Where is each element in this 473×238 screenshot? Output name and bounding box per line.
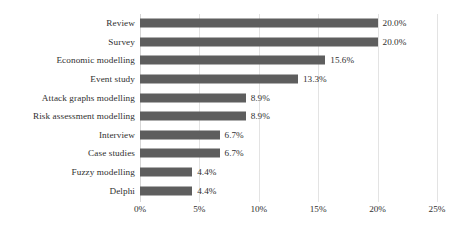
bar-value-label: 20.0% <box>383 36 407 47</box>
bar[interactable] <box>140 168 192 177</box>
bar-value-label: 6.7% <box>225 129 244 140</box>
bar-row: Fuzzy modelling4.4% <box>0 163 473 182</box>
bar-row: Attack graphs modelling8.9% <box>0 88 473 107</box>
bar[interactable] <box>140 19 378 28</box>
bar-and-value: 4.4% <box>140 168 216 177</box>
bar-row: Survey20.0% <box>0 33 473 52</box>
bar[interactable] <box>140 186 192 195</box>
bar[interactable] <box>140 149 220 158</box>
bar[interactable] <box>140 56 325 65</box>
bar-value-label: 8.9% <box>251 111 270 122</box>
bar-value-label: 4.4% <box>197 167 216 178</box>
bar-row: Event study13.3% <box>0 70 473 89</box>
category-label: Event study <box>90 74 135 85</box>
bar-rows: Review20.0%Survey20.0%Economic modelling… <box>0 14 473 202</box>
bar-value-label: 20.0% <box>383 18 407 29</box>
bar[interactable] <box>140 112 246 121</box>
bar-and-value: 13.3% <box>140 75 327 84</box>
bar-row: Case studies6.7% <box>0 144 473 163</box>
category-label: Fuzzy modelling <box>71 167 135 178</box>
category-label: Attack graphs modelling <box>42 92 135 103</box>
bar-and-value: 6.7% <box>140 149 244 158</box>
x-tick-label: 20% <box>369 203 386 215</box>
category-label: Survey <box>108 36 135 47</box>
bar[interactable] <box>140 93 246 102</box>
x-axis: 0%5%10%15%20%25% <box>0 203 473 219</box>
bar-and-value: 8.9% <box>140 93 270 102</box>
x-tick-label: 0% <box>134 203 146 215</box>
category-label: Economic modelling <box>56 55 135 66</box>
bar-and-value: 8.9% <box>140 112 270 121</box>
bar-value-label: 15.6% <box>330 55 354 66</box>
x-tick-label: 25% <box>429 203 446 215</box>
bar-chart: Review20.0%Survey20.0%Economic modelling… <box>0 0 473 238</box>
bar-value-label: 8.9% <box>251 92 270 103</box>
category-label: Review <box>106 18 135 29</box>
bar[interactable] <box>140 37 378 46</box>
bar-row: Risk assessment modelling8.9% <box>0 107 473 126</box>
category-label: Case studies <box>88 148 135 159</box>
x-tick-label: 15% <box>310 203 327 215</box>
bar-and-value: 20.0% <box>140 37 406 46</box>
x-tick-label: 10% <box>250 203 267 215</box>
bar-row: Interview6.7% <box>0 126 473 145</box>
bar[interactable] <box>140 75 298 84</box>
bar-value-label: 13.3% <box>303 74 327 85</box>
bar-and-value: 15.6% <box>140 56 354 65</box>
bar[interactable] <box>140 130 220 139</box>
bar-and-value: 20.0% <box>140 19 406 28</box>
bar-value-label: 4.4% <box>197 185 216 196</box>
category-label: Risk assessment modelling <box>33 111 135 122</box>
bar-value-label: 6.7% <box>225 148 244 159</box>
category-label: Delphi <box>109 185 135 196</box>
category-label: Interview <box>99 129 135 140</box>
x-tick-label: 5% <box>193 203 205 215</box>
bar-row: Review20.0% <box>0 14 473 33</box>
bar-and-value: 4.4% <box>140 186 216 195</box>
bar-row: Delphi4.4% <box>0 181 473 200</box>
bar-and-value: 6.7% <box>140 130 244 139</box>
bar-row: Economic modelling15.6% <box>0 51 473 70</box>
